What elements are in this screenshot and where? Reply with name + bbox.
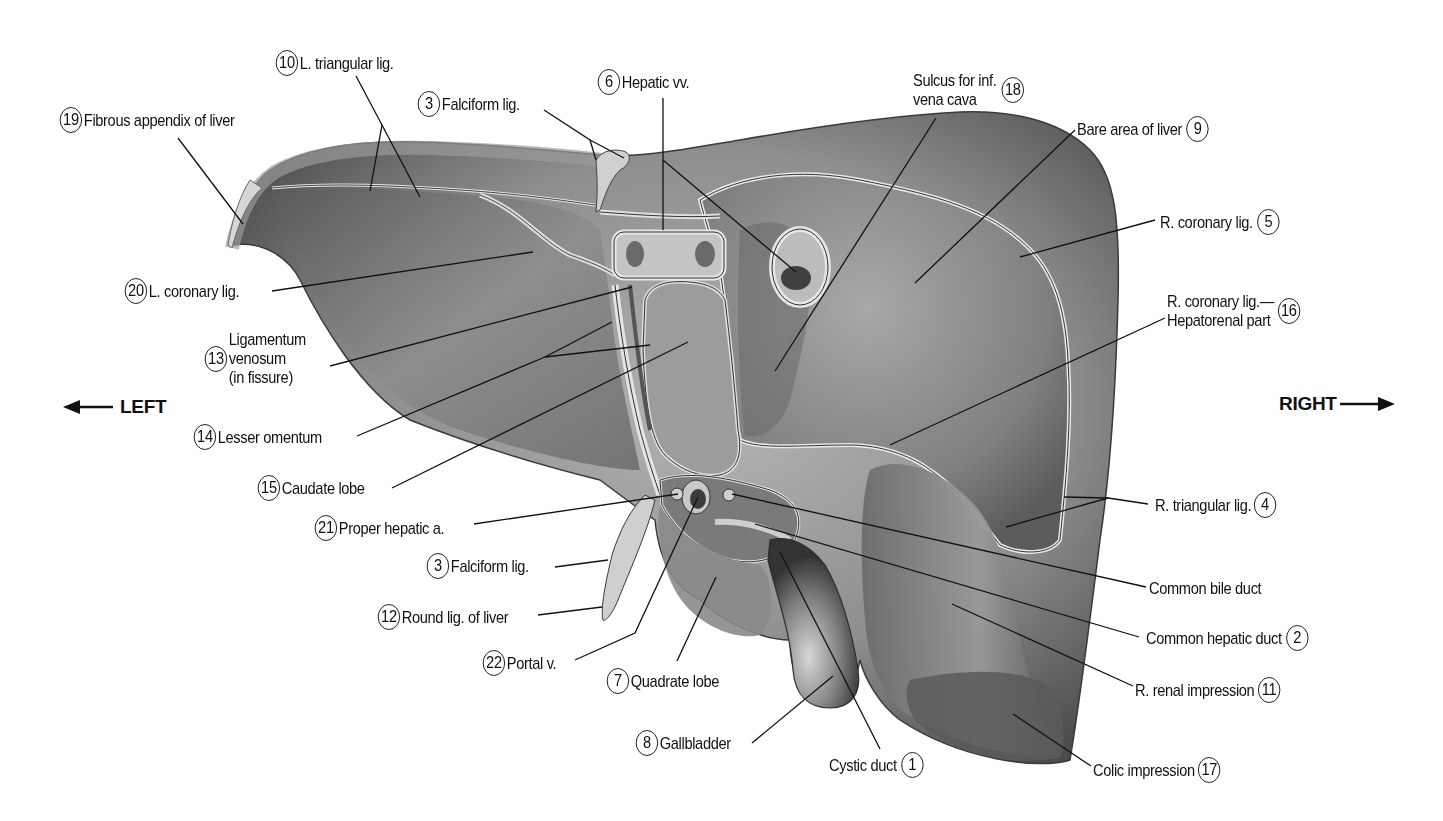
label-common-bile-duct: Common bile duct <box>1149 578 1261 598</box>
right-direction-label: RIGHT <box>1279 393 1337 415</box>
right-arrow-icon <box>1340 397 1395 411</box>
label-hepatic-veins: 6Hepatic vv. <box>596 69 689 95</box>
liver-diagram: 19Fibrous appendix of liver 10L. triangu… <box>0 0 1443 821</box>
label-caudate-lobe: 15Caudate lobe <box>256 475 365 501</box>
label-quadrate-lobe: 7Quadrate lobe <box>605 668 719 694</box>
label-sulcus-ivc: Sulcus for inf.vena cava18 <box>913 71 1026 109</box>
label-falciform-lig-top: 3Falciform lig. <box>416 91 520 117</box>
label-r-renal-impression: R. renal impression11 <box>1135 677 1282 703</box>
label-lesser-omentum: 14Lesser omentum <box>192 424 322 450</box>
label-round-lig: 12Round lig. of liver <box>376 604 508 630</box>
label-falciform-lig-bottom: 3Falciform lig. <box>425 553 529 579</box>
label-common-hepatic-duct: Common hepatic duct2 <box>1146 625 1310 651</box>
label-proper-hepatic-artery: 21Proper hepatic a. <box>313 515 444 541</box>
left-arrow-icon <box>63 400 113 414</box>
label-r-triangular-lig: R. triangular lig.4 <box>1155 492 1278 518</box>
round-ligament <box>602 495 655 620</box>
label-l-triangular-lig: 10L. triangular lig. <box>274 50 394 76</box>
label-hepatorenal-part: R. coronary lig.—Hepatorenal part16 <box>1167 292 1302 330</box>
label-bare-area: Bare area of liver9 <box>1077 116 1211 142</box>
caudate-lobe <box>643 282 740 476</box>
label-colic-impression: Colic impression17 <box>1093 757 1222 783</box>
left-direction-label: LEFT <box>120 396 166 418</box>
label-gallbladder: 8Gallbladder <box>634 730 731 756</box>
label-ligamentum-venosum: 13Ligamentumvenosum(in fissure) <box>203 330 306 387</box>
label-fibrous-appendix: 19Fibrous appendix of liver <box>58 107 234 133</box>
colic-impression <box>907 672 1064 761</box>
label-cystic-duct: Cystic duct1 <box>829 752 925 778</box>
label-r-coronary-lig: R. coronary lig.5 <box>1160 209 1281 235</box>
label-l-coronary-lig: 20L. coronary lig. <box>123 278 239 304</box>
label-portal-vein: 22Portal v. <box>481 650 556 676</box>
